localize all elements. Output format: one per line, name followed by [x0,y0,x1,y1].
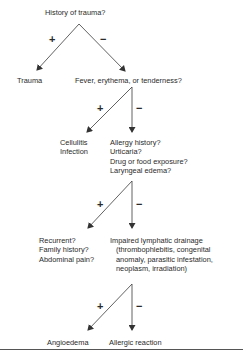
node-cellulitis-infection: Cellulitis Infection [60,138,88,157]
family-history-line: Family history? [39,245,94,254]
urticaria-line: Urticaria? [110,147,188,156]
drug-food-exposure-line: Drug or food exposure? [110,157,188,166]
node-allergic-reaction: Allergic reaction [109,338,162,347]
allergy-history-line: Allergy history? [110,138,188,147]
node-trauma: Trauma [17,76,42,85]
edge-q4-angioedema [88,284,132,330]
flowchart-edges [0,0,243,353]
sign-negative: − [136,199,142,210]
sign-negative: − [136,301,142,312]
node-angioedema: Angioedema [47,338,89,347]
bottom-rule [0,349,243,350]
lymphatic-line-4: neoplasm, irradiation) [110,264,213,273]
sign-positive: + [97,103,103,114]
recurrent-line: Recurrent? [39,236,94,245]
sign-positive: + [97,301,103,312]
node-fever-erythema-tenderness: Fever, erythema, or tenderness? [75,76,182,85]
lymphatic-line-1: Impaired lymphatic drainage [110,236,213,245]
edge-q1-q2 [79,24,125,71]
sign-negative: − [100,34,106,45]
node-history-of-trauma: History of trauma? [45,8,105,17]
laryngeal-edema-line: Laryngeal edema? [110,166,188,175]
cellulitis-line: Cellulitis [60,138,88,147]
sign-negative: − [136,103,142,114]
node-recurrent-questions: Recurrent? Family history? Abdominal pai… [39,236,94,264]
edge-q3-q4 [88,181,132,228]
lymphatic-line-3: anomaly, parasitic infestation, [110,255,213,264]
sign-positive: + [97,199,103,210]
abdominal-pain-line: Abdominal pain? [39,255,94,264]
edge-q2-cellulitis [87,87,132,132]
sign-positive: + [49,34,55,45]
infection-line: Infection [60,147,88,156]
edge-q1-trauma [37,24,79,70]
lymphatic-line-2: (thrombophlebitis, congenital [110,245,213,254]
node-allergy-questions: Allergy history? Urticaria? Drug or food… [110,138,188,176]
node-impaired-lymphatic-drainage: Impaired lymphatic drainage (thrombophle… [110,236,213,274]
